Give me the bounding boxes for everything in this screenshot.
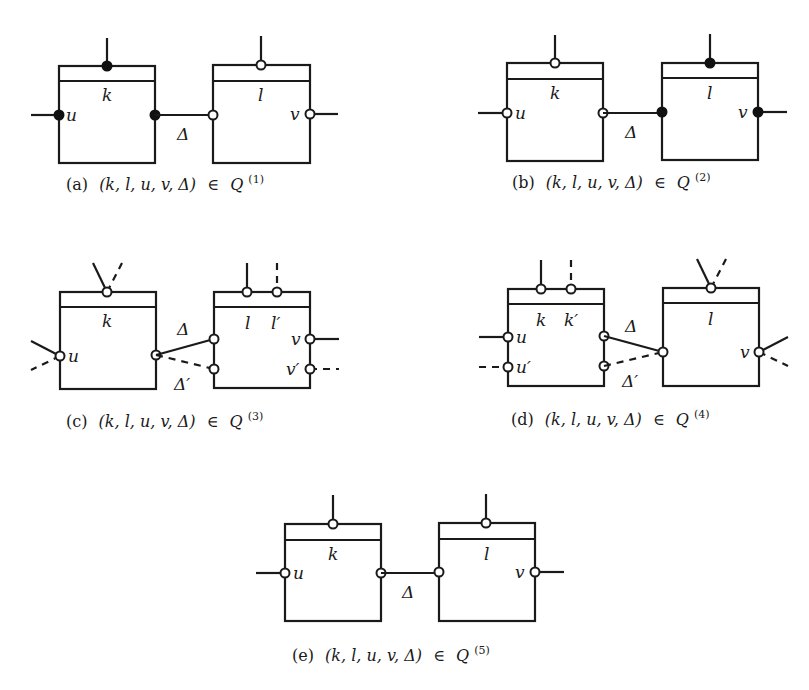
open-port-icon	[537, 285, 546, 294]
open-port-icon	[306, 110, 315, 119]
caption-superscript: (3)	[248, 410, 264, 423]
box-label-k: k	[102, 85, 112, 105]
edge-label-delta: Δ	[176, 319, 189, 339]
caption-relation: ∈	[654, 173, 666, 192]
port-label-v: v	[738, 102, 748, 122]
caption-tuple: (k, l, u, v, Δ)	[99, 175, 196, 194]
panel-a-right-box: l v	[209, 36, 339, 163]
caption-relation: ∈	[207, 175, 219, 194]
box-label-l: l	[707, 83, 712, 103]
port-label-v-prime: v′	[286, 359, 300, 379]
caption-set: Q	[677, 173, 690, 192]
panel-d: k k′ u u′ Δ Δ′ l v (d) (k, l, u, v, Δ) ∈…	[479, 259, 788, 429]
delta-prime-edge	[604, 352, 663, 366]
box-label-k: k	[550, 83, 560, 103]
open-port-icon	[567, 285, 576, 294]
port-label-u: u	[516, 327, 527, 347]
caption-b: (b) (k, l, u, v, Δ) ∈ Q (2)	[512, 171, 711, 192]
panel-c-right-box: l l′ v v′	[210, 263, 340, 388]
open-port-icon	[273, 288, 282, 297]
box-label-l: l	[258, 85, 263, 105]
open-port-icon	[482, 519, 491, 528]
caption-superscript: (4)	[694, 408, 710, 421]
box-label-l-prime: l′	[271, 313, 280, 333]
caption-tuple: (k, l, u, v, Δ)	[325, 646, 422, 665]
filled-port-icon	[658, 108, 667, 117]
caption-a: (a) (k, l, u, v, Δ) ∈ Q (1)	[66, 173, 264, 194]
edge-label-delta-prime: Δ′	[621, 371, 638, 391]
open-port-icon	[209, 111, 218, 120]
box-label-k: k	[536, 310, 546, 330]
panel-d-right-box: l v	[659, 259, 789, 386]
caption-tuple: (k, l, u, v, Δ)	[545, 410, 642, 429]
figure-canvas: k u Δ l v (a) (k, l, u, v, Δ) ∈ Q (1)	[0, 0, 809, 690]
open-port-icon	[504, 363, 513, 372]
caption-superscript: (2)	[695, 171, 711, 184]
caption-d: (d) (k, l, u, v, Δ) ∈ Q (4)	[511, 408, 710, 429]
caption-relation: ∈	[433, 646, 445, 665]
port-label-v: v	[290, 104, 300, 124]
open-port-icon	[707, 284, 716, 293]
caption-tuple: (k, l, u, v, Δ)	[99, 412, 196, 431]
edge-label-delta: Δ	[624, 316, 637, 336]
caption-superscript: (1)	[248, 173, 264, 186]
caption-set: Q	[230, 412, 243, 431]
caption-e: (e) (k, l, u, v, Δ) ∈ Q (5)	[292, 644, 490, 665]
port-label-u-prime: u′	[516, 357, 531, 377]
caption-tag: (b)	[512, 173, 535, 192]
filled-port-icon	[706, 59, 715, 68]
box-label-k: k	[102, 311, 112, 331]
open-port-icon	[243, 288, 252, 297]
box-label-k: k	[328, 544, 338, 564]
caption-set: Q	[676, 410, 689, 429]
open-port-icon	[504, 333, 513, 342]
caption-superscript: (5)	[474, 644, 490, 657]
open-port-icon	[257, 61, 266, 70]
port-label-v: v	[740, 342, 750, 362]
caption-tag: (a)	[66, 175, 88, 194]
panel-e: k u Δ l v (e) (k, l, u, v, Δ) ∈ Q (5)	[256, 494, 564, 665]
delta-edge	[604, 336, 663, 352]
filled-port-icon	[754, 108, 763, 117]
edge-label-delta: Δ	[624, 122, 637, 142]
open-port-icon	[210, 335, 219, 344]
caption-c: (c) (k, l, u, v, Δ) ∈ Q (3)	[66, 410, 263, 431]
open-port-icon	[659, 348, 668, 357]
filled-port-icon	[103, 62, 112, 71]
panel-e-left-box: k u	[256, 495, 386, 621]
open-port-icon	[306, 365, 315, 374]
open-port-icon	[329, 520, 338, 529]
panel-b-right-box: l v	[658, 34, 788, 160]
delta-prime-edge	[156, 355, 214, 369]
port-label-v: v	[515, 562, 525, 582]
panel-b: k u Δ l v (b) (k, l, u, v, Δ) ∈ Q (2)	[478, 34, 787, 192]
box-label-l: l	[245, 313, 250, 333]
open-port-icon	[306, 335, 315, 344]
open-port-icon	[435, 568, 444, 577]
panel-a-left-box: k u	[31, 38, 160, 163]
panel-b-left-box: k u	[478, 35, 608, 161]
edge-label-delta: Δ	[401, 582, 414, 602]
panel-e-right-box: l v	[435, 494, 565, 621]
open-port-icon	[210, 365, 219, 374]
edge-label-delta-prime: Δ′	[173, 374, 190, 394]
open-port-icon	[281, 569, 290, 578]
filled-port-icon	[55, 111, 64, 120]
caption-tag: (c)	[66, 412, 87, 431]
panel-c: k u Δ Δ′ l l′ v v′ (c) (k, l, u	[31, 263, 339, 431]
panel-c-left-box: k u	[31, 263, 161, 389]
open-port-icon	[551, 59, 560, 68]
open-port-icon	[755, 348, 764, 357]
caption-relation: ∈	[653, 410, 665, 429]
port-label-u: u	[68, 346, 79, 366]
box-label-k-prime: k′	[564, 310, 578, 330]
open-port-icon	[503, 109, 512, 118]
port-label-u: u	[515, 103, 526, 123]
caption-tuple: (k, l, u, v, Δ)	[546, 173, 643, 192]
delta-edge	[156, 339, 214, 355]
caption-tag: (d)	[511, 410, 534, 429]
box-label-l: l	[708, 309, 713, 329]
open-port-icon	[103, 288, 112, 297]
panel-d-left-box: k k′ u u′	[479, 260, 609, 386]
caption-relation: ∈	[207, 412, 219, 431]
